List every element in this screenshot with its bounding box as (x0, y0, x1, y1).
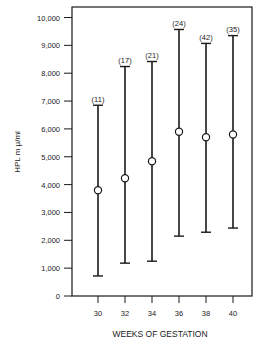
x-tick-label: 38 (202, 309, 210, 318)
x-tick-label: 36 (175, 309, 183, 318)
mean-marker (229, 131, 236, 138)
x-tick-label: 34 (148, 309, 156, 318)
x-tick-label: 32 (121, 309, 129, 318)
sample-size-label: (11) (92, 95, 105, 104)
y-tick-label: 4,000 (41, 181, 60, 190)
sample-size-label: (17) (118, 56, 132, 65)
hpl-gestation-chart: 01,0002,0003,0004,0005,0006,0007,0008,00… (0, 0, 263, 348)
mean-marker (148, 158, 155, 165)
error-bar-week-34: (21) (145, 51, 159, 261)
mean-marker (94, 187, 101, 194)
error-bars: (11)(17)(21)(24)(42)(35) (92, 19, 241, 276)
mean-marker (175, 128, 182, 135)
plot-frame (72, 7, 252, 296)
error-bar-week-40: (35) (226, 25, 240, 228)
chart-canvas: 01,0002,0003,0004,0005,0006,0007,0008,00… (0, 0, 263, 348)
y-tick-label: 9,000 (41, 41, 60, 50)
sample-size-label: (24) (172, 19, 186, 28)
y-tick-label: 2,000 (41, 236, 60, 245)
y-tick-label: 1,000 (41, 264, 60, 273)
y-tick-label: 5,000 (41, 153, 60, 162)
y-axis: 01,0002,0003,0004,0005,0006,0007,0008,00… (37, 14, 72, 302)
y-tick-label: 6,000 (41, 125, 60, 134)
y-tick-label: 7,000 (41, 97, 60, 106)
error-bar-week-36: (24) (172, 19, 186, 236)
y-tick-label: 3,000 (41, 208, 60, 217)
y-tick-label: 10,000 (37, 14, 60, 23)
mean-marker (202, 134, 209, 141)
x-axis: 303234363840 (94, 296, 237, 318)
sample-size-label: (35) (226, 25, 240, 34)
sample-size-label: (21) (145, 51, 159, 60)
y-tick-label: 0 (56, 292, 60, 301)
x-tick-label: 40 (229, 309, 237, 318)
mean-marker (121, 175, 128, 182)
x-axis-label: WEEKS OF GESTATION (112, 329, 207, 339)
y-axis-label: HPL m μ/ml (13, 131, 22, 173)
error-bar-week-30: (11) (92, 95, 105, 276)
sample-size-label: (42) (199, 33, 213, 42)
error-bar-week-38: (42) (199, 33, 213, 232)
y-tick-label: 8,000 (41, 69, 60, 78)
error-bar-week-32: (17) (118, 56, 132, 263)
x-tick-label: 30 (94, 309, 102, 318)
